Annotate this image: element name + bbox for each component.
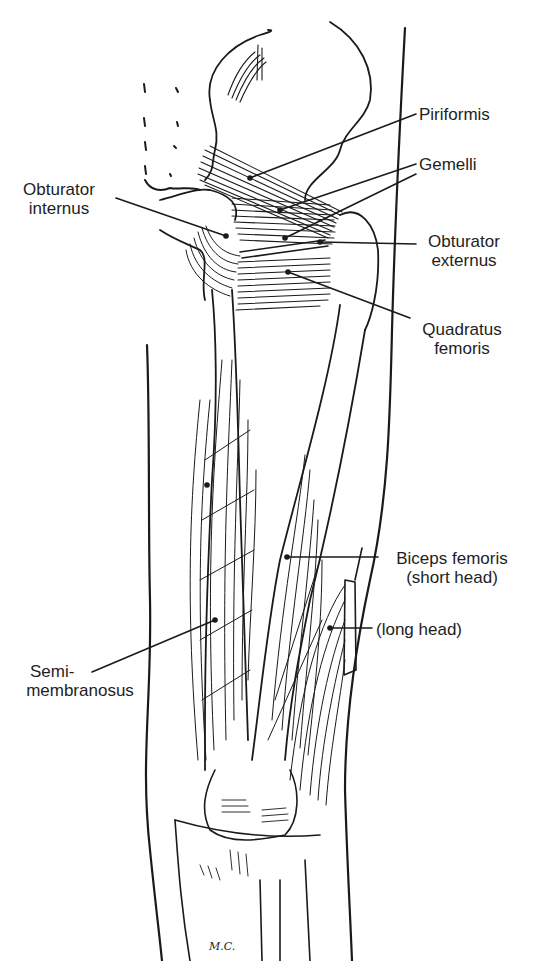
label-obturator-externus-line1: Obturator: [414, 232, 514, 251]
label-biceps-femoris-short: Biceps femoris (short head): [382, 549, 522, 587]
label-biceps-short-line1: Biceps femoris: [382, 549, 522, 568]
obturator-externus-muscle: [240, 240, 328, 258]
label-quadratus-femoris-line1: Quadratus: [412, 320, 512, 339]
label-gemelli: Gemelli: [419, 155, 477, 174]
label-quadratus-femoris: Quadratus femoris: [412, 320, 512, 358]
knee-and-tibia: [175, 770, 320, 961]
label-biceps-short-line2: (short head): [382, 568, 522, 587]
label-semimembranosus-line1: Semi-: [16, 662, 144, 681]
label-piriformis: Piriformis: [419, 105, 490, 124]
ilium-hatching: [228, 45, 266, 102]
label-semimembranosus-line2: membranosus: [16, 681, 144, 700]
label-obturator-internus-line1: Obturator: [12, 180, 106, 199]
artist-signature: M.C.: [209, 940, 235, 953]
label-obturator-externus: Obturator externus: [414, 232, 514, 270]
label-obturator-externus-line2: externus: [414, 251, 514, 270]
sacrum-marks: [144, 84, 200, 190]
piriformis-muscle: [198, 146, 342, 238]
quadratus-femoris-muscle: [236, 258, 330, 310]
label-quadratus-femoris-line2: femoris: [412, 339, 512, 358]
obturator-internus-muscle: [186, 226, 240, 296]
label-semimembranosus: Semi- membranosus: [16, 662, 144, 700]
label-biceps-femoris-long: (long head): [376, 620, 462, 639]
anatomy-figure: [0, 0, 546, 961]
label-obturator-internus-line2: internus: [12, 199, 106, 218]
pelvis-bone: [160, 22, 371, 300]
label-obturator-internus: Obturator internus: [12, 180, 106, 218]
